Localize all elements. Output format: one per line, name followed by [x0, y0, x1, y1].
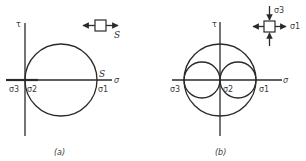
mohr-circle-figure: τ σ σ3 σ2 σ1 S S (a) τ σ σ3 [0, 0, 306, 161]
panel-b: τ σ σ3 σ2 σ1 σ3 σ1 (b) [170, 6, 300, 157]
tau-label-a: τ [16, 20, 21, 29]
sigma1-label-b: σ1 [259, 85, 269, 94]
sigma1-label-a: σ1 [98, 85, 108, 94]
sigma2-label-a: σ2 [27, 85, 37, 94]
element-sigma3-label-b: σ3 [274, 6, 284, 15]
panel-a: τ σ σ3 σ2 σ1 S S (a) [6, 20, 120, 157]
stress-element-b: σ3 σ1 [253, 6, 300, 46]
sigma-label-a: σ [114, 76, 120, 85]
sigma3-label-a: σ3 [9, 85, 19, 94]
caption-b: (b) [215, 148, 226, 157]
sigma3-label-b: σ3 [170, 85, 180, 94]
sigma-label-b: σ [283, 76, 289, 85]
S-point-label-a: S [99, 69, 105, 79]
element-square-b [264, 21, 275, 32]
stress-element-a: S [83, 20, 120, 40]
element-square-a [95, 20, 106, 31]
caption-a: (a) [54, 148, 65, 157]
element-S-label-a: S [114, 30, 120, 40]
tau-label-b: τ [212, 20, 217, 29]
element-sigma1-label-b: σ1 [290, 22, 300, 31]
sigma2-label-b: σ2 [223, 85, 233, 94]
